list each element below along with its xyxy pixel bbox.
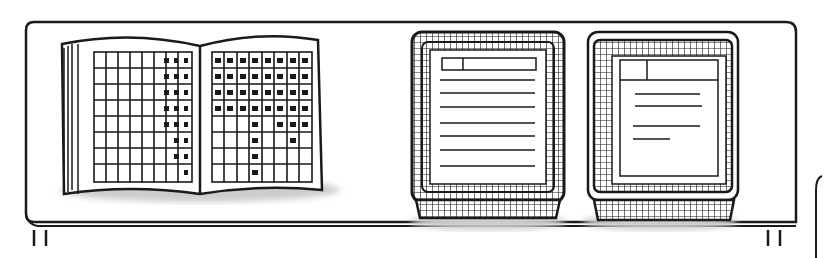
chair-edge [816,176,822,258]
inbox-tray-right [582,32,738,230]
desk-leg-left [34,230,46,246]
inbox-tray-left [410,32,566,230]
desk-leg-right [768,230,780,246]
open-ledger-book [60,36,340,202]
tray-front-left [416,200,560,218]
desk-illustration [0,0,826,258]
tray-front-right [594,200,734,220]
